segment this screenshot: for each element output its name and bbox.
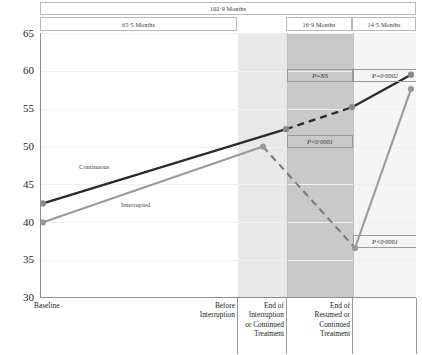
header-total-duration-label: 102·9 Months — [210, 5, 246, 12]
y-tick-30: 30 — [0, 291, 34, 303]
point-continuous-end — [349, 104, 355, 110]
series-interrupted-line-b — [355, 89, 411, 248]
header-segment-3-label: 14·5 Months — [368, 21, 401, 28]
point-interrupted-final — [408, 86, 414, 92]
point-interrupted-before — [260, 144, 266, 150]
y-tick-60: 60 — [0, 64, 34, 76]
p-value-mid-middle: P<0·0001 — [307, 138, 333, 145]
x-separator-3 — [352, 298, 353, 354]
y-tick-65: 65 — [0, 27, 34, 39]
curve-label-continuous: Continuous — [79, 163, 109, 170]
series-continuous-dashed — [286, 107, 352, 129]
point-continuous-baseline — [41, 200, 46, 206]
x-separator-2 — [286, 298, 287, 354]
x-separator-4 — [416, 298, 417, 354]
point-continuous-before — [283, 126, 289, 132]
y-tick-40: 40 — [0, 216, 34, 228]
header-segment-1: 65·5 Months — [40, 17, 237, 31]
y-tick-35: 35 — [0, 253, 34, 265]
x-separator-1 — [237, 298, 238, 354]
header-total-duration: 102·9 Months — [40, 2, 416, 15]
y-tick-55: 55 — [0, 102, 34, 114]
curve-label-interrupted: Interrupted — [121, 201, 150, 208]
plot-area: Continuous Interrupted P=NS P=0·0002 P<0… — [40, 33, 416, 298]
x-label-end-resumed: End ofResumed orContinuedTreatment — [288, 301, 350, 339]
p-value-top-middle: P=NS — [312, 72, 328, 79]
chart-figure: 102·9 Months 65·5 Months 16·9 Months 14·… — [0, 0, 422, 355]
y-tick-45: 45 — [0, 178, 34, 190]
x-label-end-interruption: End ofInterruptionor ContinuedTreatment — [239, 301, 284, 339]
p-value-box-mid-middle: P<0·0001 — [287, 135, 353, 148]
series-interrupted-projection — [263, 147, 355, 248]
header-segment-2-label: 16·9 Months — [303, 21, 336, 28]
p-value-box-low-right: P<0·0001 — [353, 235, 416, 248]
x-label-baseline: Baseline — [34, 301, 124, 310]
x-label-before-interruption: BeforeInterruption — [170, 301, 235, 320]
header-segment-3: 14·5 Months — [352, 17, 416, 31]
header-segment-2: 16·9 Months — [286, 17, 352, 31]
header-segment-1-label: 65·5 Months — [122, 21, 155, 28]
y-tick-50: 50 — [0, 140, 34, 152]
p-value-box-top-right: P=0·0002 — [353, 69, 416, 82]
p-value-low-right: P<0·0001 — [372, 238, 398, 245]
p-value-box-top-middle: P=NS — [287, 69, 353, 82]
series-interrupted-line-a — [43, 147, 263, 223]
p-value-top-right: P=0·0002 — [372, 72, 398, 79]
point-interrupted-baseline — [41, 219, 46, 225]
